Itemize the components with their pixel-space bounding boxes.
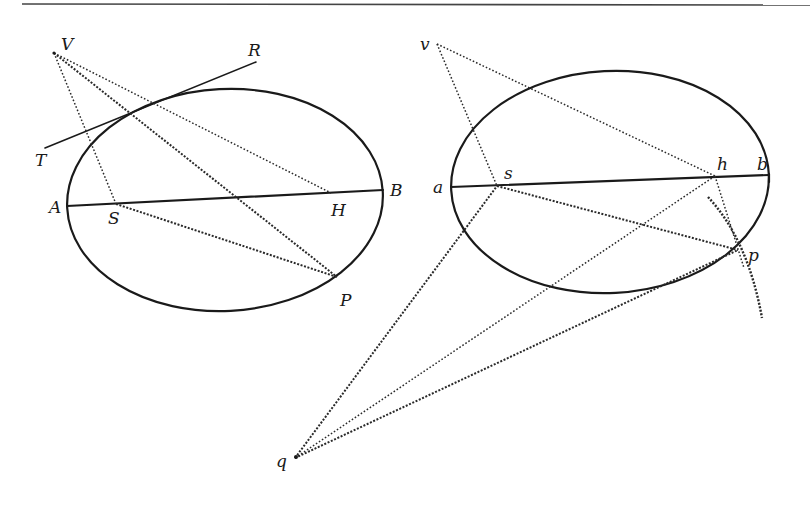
right-point-q: [294, 455, 298, 459]
label-v: v: [420, 34, 430, 54]
left-figure: V R T A S H B P: [35, 34, 403, 319]
label-a: a: [433, 177, 443, 197]
label-h: h: [717, 154, 728, 174]
right-major-axis: [451, 175, 769, 187]
label-A: A: [47, 197, 61, 217]
right-line-q-p: [295, 250, 738, 458]
geometry-figure: V R T A S H B P v a s h b p q: [0, 0, 811, 505]
label-s: s: [504, 163, 513, 183]
label-S: S: [108, 208, 120, 228]
left-line-S-P: [116, 204, 337, 277]
label-B: B: [389, 180, 403, 200]
right-line-s-p: [497, 186, 738, 250]
label-P: P: [339, 290, 352, 310]
right-line-q-h: [295, 176, 715, 458]
label-b: b: [757, 154, 768, 174]
header-rule: [22, 4, 810, 5]
left-line-V-H: [54, 53, 331, 193]
left-point-V: [52, 51, 55, 54]
label-q: q: [276, 451, 287, 471]
left-tangent-line: [45, 62, 256, 148]
right-line-v-h: [437, 44, 715, 176]
right-figure: v a s h b p q: [276, 34, 775, 471]
label-H: H: [330, 200, 347, 220]
label-V: V: [61, 34, 75, 54]
label-R: R: [247, 40, 261, 60]
label-T: T: [35, 150, 48, 170]
label-p: p: [748, 245, 759, 265]
right-line-q-s: [295, 186, 497, 458]
